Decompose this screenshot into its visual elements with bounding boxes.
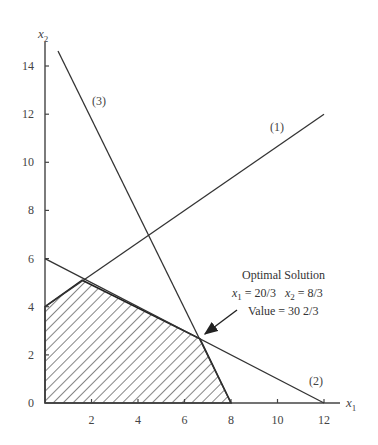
line-label-1: (1) — [270, 120, 284, 134]
y-axis-label: x2 — [37, 26, 48, 44]
arrow-icon — [205, 310, 237, 334]
y-tick-label: 6 — [28, 252, 34, 266]
x-tick-label: 10 — [272, 413, 284, 427]
y-tick-label: 0 — [28, 396, 34, 410]
feasible-region — [45, 280, 231, 403]
x-tick-label: 6 — [182, 413, 188, 427]
lp-feasible-region-chart: 0 2 4 6 8 10 12 14 2 4 6 8 10 12 x2 x1 (… — [0, 0, 378, 445]
y-tick-label: 14 — [22, 59, 34, 73]
y-tick-label: 12 — [22, 107, 34, 121]
y-tick-label: 2 — [28, 348, 34, 362]
line-label-2: (2) — [309, 374, 323, 388]
x-axis-label: x1 — [345, 395, 356, 413]
annotation-title: Optimal Solution — [242, 268, 325, 282]
x-tick-label: 8 — [228, 413, 234, 427]
annotation-coords: x1 = 20/3 x2 = 8/3 — [231, 286, 323, 302]
x-tick-label: 12 — [318, 413, 330, 427]
line-label-3: (3) — [92, 94, 106, 108]
y-tick-label: 8 — [28, 203, 34, 217]
y-tick-label: 4 — [28, 300, 34, 314]
x-tick-label: 4 — [135, 413, 141, 427]
y-tick-label: 10 — [22, 155, 34, 169]
annotation-value: Value = 30 2/3 — [248, 304, 318, 318]
x-tick-label: 2 — [89, 413, 95, 427]
